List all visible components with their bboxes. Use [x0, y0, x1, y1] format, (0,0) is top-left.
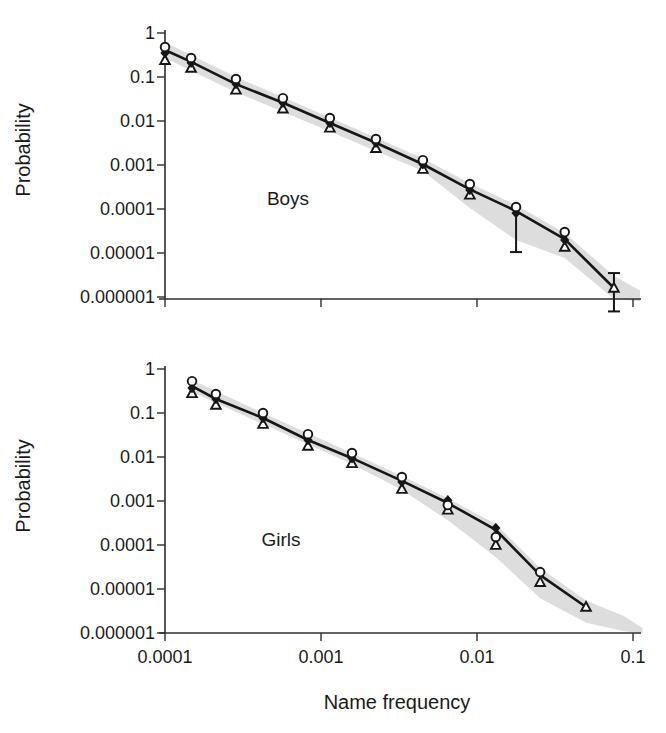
y-tick-label: 0.00001 — [90, 243, 155, 263]
x-tick-label: 0.01 — [459, 647, 494, 667]
y-tick-label: 1 — [145, 359, 155, 379]
y-tick-label: 0.0001 — [100, 535, 155, 555]
x-tick-label: 0.001 — [298, 647, 343, 667]
y-tick-label: 1 — [145, 23, 155, 43]
y-tick-label: 0.1 — [130, 67, 155, 87]
data-point-circle — [259, 409, 268, 418]
girls-panel-label: Girls — [261, 529, 300, 550]
data-point-circle — [188, 377, 197, 386]
data-point-circle — [512, 203, 521, 212]
data-point-circle — [419, 156, 428, 165]
girls-plot-area — [157, 366, 642, 641]
data-point-circle — [372, 135, 381, 144]
name-frequency-figure: 1 0.1 0.01 0.001 0.0001 0.00001 0.000001… — [0, 0, 666, 733]
girls-y-axis-title: Probability — [12, 439, 34, 532]
y-tick-label: 0.00001 — [90, 579, 155, 599]
data-point-circle — [536, 568, 545, 577]
data-point-circle — [212, 390, 221, 399]
x-tick-label: 0.1 — [620, 647, 645, 667]
data-point-circle — [187, 54, 196, 63]
boys-panel-label: Boys — [267, 188, 309, 209]
y-tick-label: 0.001 — [110, 155, 155, 175]
data-point-circle — [560, 228, 569, 237]
x-tick-labels: 0.0001 0.001 0.01 0.1 — [137, 647, 645, 667]
data-point-circle — [398, 473, 407, 482]
boys-panel: 1 0.1 0.01 0.001 0.0001 0.00001 0.000001… — [12, 23, 641, 311]
figure-page: 1 0.1 0.01 0.001 0.0001 0.00001 0.000001… — [0, 0, 666, 733]
data-point-circle — [161, 43, 170, 52]
y-tick-label: 0.01 — [120, 447, 155, 467]
x-axis-title: Name frequency — [324, 691, 471, 713]
data-point-circle — [492, 533, 501, 542]
girls-y-tick-labels: 1 0.1 0.01 0.001 0.0001 0.00001 0.000001 — [80, 359, 155, 643]
boys-y-tick-labels: 1 0.1 0.01 0.001 0.0001 0.00001 0.000001 — [80, 23, 155, 307]
y-tick-label: 0.000001 — [80, 287, 155, 307]
data-point-circle — [466, 180, 475, 189]
girls-panel: 1 0.1 0.01 0.001 0.0001 0.00001 0.000001… — [12, 359, 646, 713]
data-point-circle — [232, 75, 241, 84]
x-tick-label: 0.0001 — [137, 647, 192, 667]
y-tick-label: 0.01 — [120, 111, 155, 131]
data-point-circle — [326, 114, 335, 123]
y-tick-label: 0.0001 — [100, 199, 155, 219]
y-tick-label: 0.001 — [110, 491, 155, 511]
y-tick-label: 0.1 — [130, 403, 155, 423]
boys-y-axis-title: Probability — [12, 103, 34, 196]
data-point-circle — [444, 501, 453, 510]
y-tick-label: 0.000001 — [80, 623, 155, 643]
data-point-circle — [304, 430, 313, 439]
boys-plot-area — [157, 30, 641, 311]
data-point-circle — [348, 449, 357, 458]
data-point-circle — [279, 94, 288, 103]
